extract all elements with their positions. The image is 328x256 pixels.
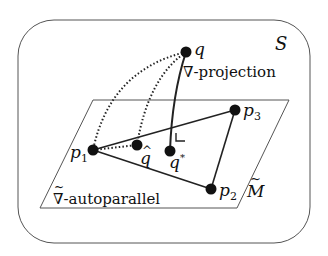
edge-p3-p2: [211, 110, 235, 189]
label-autoparallel: ∇-autoparallel: [53, 190, 160, 208]
point-p3: [230, 105, 241, 116]
edge-p1-p3: [93, 110, 235, 150]
label-p2-sub: 2: [230, 190, 237, 203]
label-space-s: S: [275, 33, 287, 54]
label-q-star-sup: *: [180, 152, 185, 163]
space-boundary: [18, 20, 310, 243]
label-q-star: q*: [169, 152, 185, 172]
label-p2: p2: [219, 180, 237, 203]
label-p2-main: p: [219, 180, 230, 200]
point-q: [181, 47, 192, 58]
label-p1-sub: 1: [81, 152, 88, 165]
label-autoparallel-tilde: ~: [54, 180, 64, 194]
point-p2: [206, 184, 217, 195]
label-p1-main: p: [70, 142, 81, 162]
label-p3-main: p: [243, 100, 254, 120]
label-q-hat-accent: ^: [142, 144, 152, 158]
label-projection: ∇-projection: [183, 63, 276, 81]
label-p1: p1: [70, 142, 88, 165]
label-q-star-main: q: [169, 152, 180, 172]
label-q: q: [194, 39, 205, 59]
point-p1: [88, 145, 99, 156]
right-angle-mark: [176, 133, 185, 141]
label-submanifold-tilde: ~: [250, 171, 261, 186]
dotted-curve-q-to-p1: [93, 52, 186, 150]
label-p3-sub: 3: [254, 110, 261, 123]
label-p3: p3: [243, 100, 261, 123]
projection-diagram: S q ∇-projection p3 p1 q ^ q* p2 M ~ ∇-a…: [0, 0, 328, 256]
